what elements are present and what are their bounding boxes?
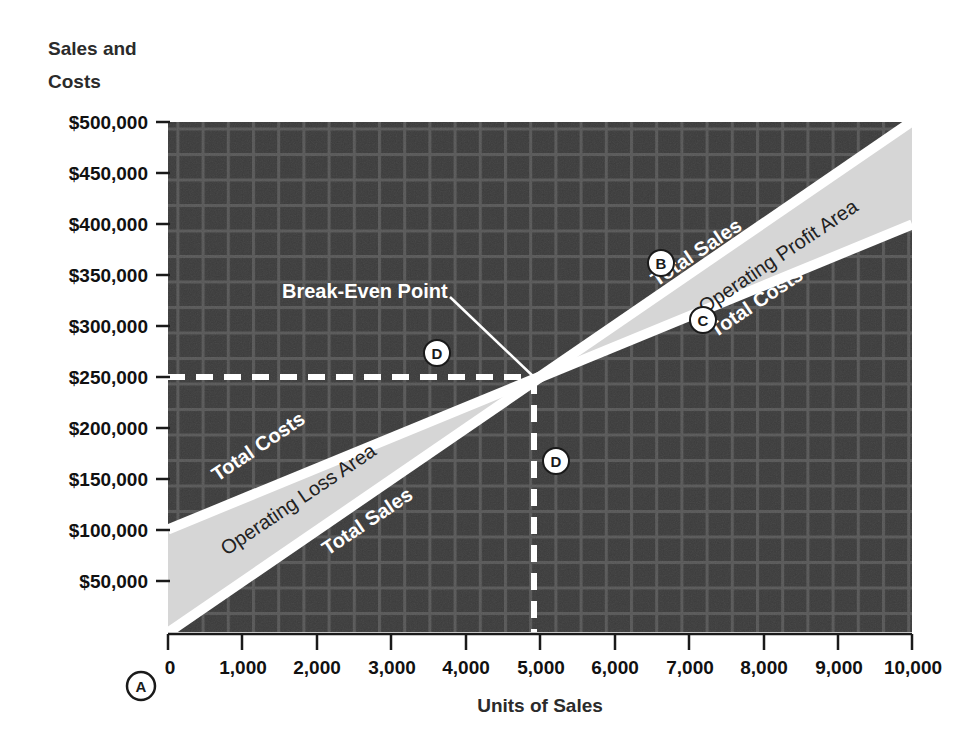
y-axis-title-line1: Sales and xyxy=(48,38,137,59)
x-tick-label: 0 xyxy=(165,657,176,678)
y-tick-label: $500,000 xyxy=(69,112,148,133)
marker-b-letter: B xyxy=(656,255,667,272)
x-tick-label: 2,000 xyxy=(293,657,341,678)
y-tick-label: $100,000 xyxy=(69,520,148,541)
y-tick-label: $350,000 xyxy=(69,265,148,286)
x-tick-label: 5,000 xyxy=(517,657,565,678)
marker-a: A xyxy=(127,672,155,700)
y-tick-label: $450,000 xyxy=(69,163,148,184)
break-even-chart: Sales and Costs xyxy=(0,0,970,742)
x-tick-label: 3,000 xyxy=(368,657,416,678)
marker-d-horizontal: D xyxy=(424,340,450,366)
x-axis-title: Units of Sales xyxy=(477,695,603,716)
y-tick-label: $50,000 xyxy=(79,571,148,592)
y-tick-label: $400,000 xyxy=(69,214,148,235)
x-tick-label: 9,000 xyxy=(815,657,863,678)
marker-d2-letter: D xyxy=(551,453,562,470)
marker-c: C xyxy=(690,307,716,333)
y-tick-label: $250,000 xyxy=(69,367,148,388)
y-tick-label: $200,000 xyxy=(69,418,148,439)
y-tick-label: $300,000 xyxy=(69,316,148,337)
marker-d-vertical: D xyxy=(543,448,569,474)
marker-d1-letter: D xyxy=(432,345,443,362)
x-tick-label: 7,000 xyxy=(666,657,714,678)
y-tick-label: $150,000 xyxy=(69,469,148,490)
x-tick-label: 6,000 xyxy=(591,657,639,678)
x-tick-label: 8,000 xyxy=(740,657,788,678)
y-axis-title-line2: Costs xyxy=(48,71,101,92)
marker-c-letter: C xyxy=(698,312,709,329)
x-tick-label: 4,000 xyxy=(442,657,490,678)
marker-a-letter: A xyxy=(136,678,147,695)
x-tick-label: 1,000 xyxy=(219,657,267,678)
x-tick-label: 10,000 xyxy=(884,657,942,678)
marker-b: B xyxy=(648,250,674,276)
break-even-point-label: Break-Even Point xyxy=(282,280,448,302)
